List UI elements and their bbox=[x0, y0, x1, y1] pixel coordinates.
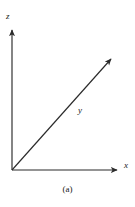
y-axis-line bbox=[12, 59, 111, 170]
z-axis-label: z bbox=[6, 12, 10, 21]
figure-container: z x y (a) bbox=[0, 0, 135, 207]
y-axis-label: y bbox=[78, 106, 82, 115]
axes-diagram bbox=[0, 0, 135, 207]
figure-caption: (a) bbox=[0, 185, 135, 194]
x-axis-label: x bbox=[124, 161, 128, 170]
